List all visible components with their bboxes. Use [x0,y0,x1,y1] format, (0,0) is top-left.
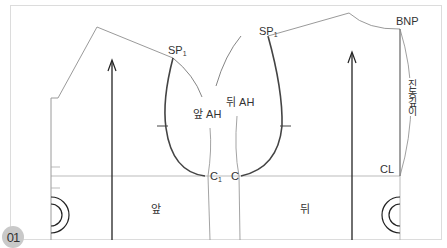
front-fold-mark-inner-icon [51,204,62,226]
pattern-diagram: SP1 SP1 앞 AH 뒤 AH C1 C BNP CL 진동깊이 앞 뒤 0… [0,0,447,248]
back-fold-mark-inner-icon [389,204,400,226]
front-ah-guide-lower [208,128,211,240]
label-sp1-front: SP1 [168,45,187,57]
pattern-drawing [0,0,447,248]
label-bnp: BNP [396,16,419,27]
frame-border [11,6,442,240]
front-fold-mark-outer-icon [51,197,69,233]
back-shoulder-line [268,13,349,36]
label-c1: C1 [210,171,222,183]
back-ah-guide [216,36,241,86]
label-front-ah: 앞 AH [193,109,221,120]
label-sp1-back: SP1 [259,26,278,38]
label-back-ah: 뒤 AH [226,97,254,108]
label-c: C [231,171,239,182]
back-neckline [349,13,400,29]
label-back: 뒤 [300,204,310,215]
step-number-badge: 01 [2,226,24,248]
back-fold-mark-outer-icon [382,197,400,233]
label-front: 앞 [151,204,161,215]
label-cl: CL [380,164,394,175]
label-armhole-depth: 진동깊이 [406,78,416,116]
front-ah-guide [173,58,202,97]
